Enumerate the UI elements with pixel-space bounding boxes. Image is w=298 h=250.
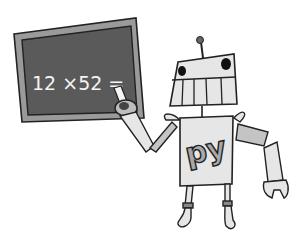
robot-teacher-illustration: 12 ×52 = py — [0, 0, 298, 250]
wrench-hand-icon — [263, 180, 288, 198]
robot-upper-arm-left — [150, 122, 177, 152]
robot-arm-right — [236, 124, 288, 198]
robot-antenna — [197, 37, 204, 59]
robot-eye-right — [221, 58, 231, 70]
robot-legs — [178, 184, 235, 228]
chalkboard-equation: 12 ×52 = — [32, 72, 124, 94]
robot-eye-left — [178, 66, 186, 76]
robot-body: py — [180, 116, 233, 186]
robot-forearm-left — [120, 112, 154, 152]
robot-head — [170, 54, 237, 106]
